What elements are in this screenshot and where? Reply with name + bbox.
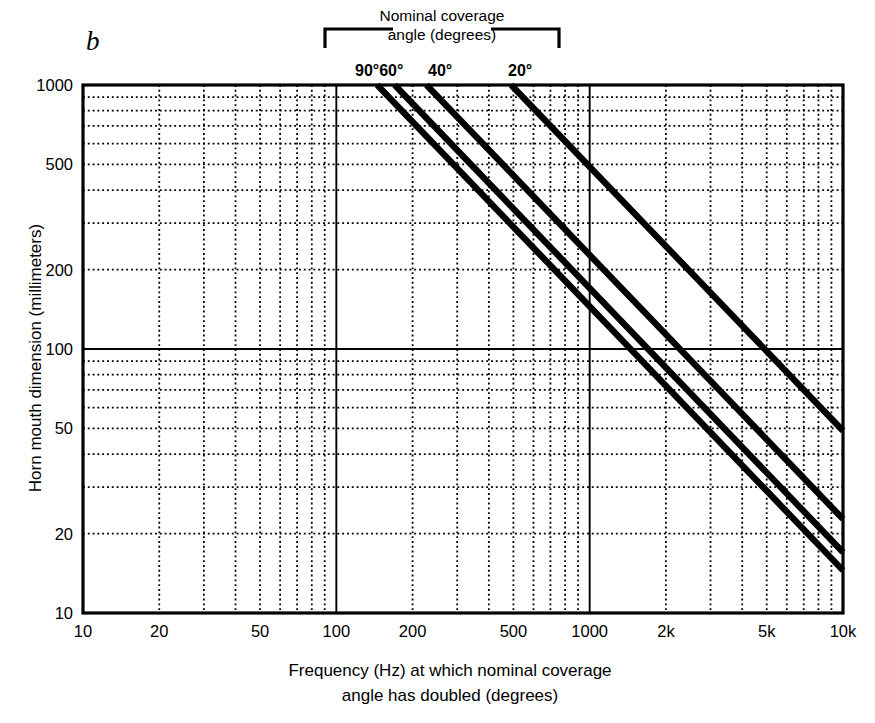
x-tick-label: 500 [500, 622, 528, 641]
x-tick-label: 2k [657, 622, 674, 641]
x-tick-label: 20 [150, 622, 168, 641]
x-tick-label: 10 [74, 622, 92, 641]
y-tick-label: 1000 [0, 76, 73, 95]
x-tick-label: 1000 [571, 622, 608, 641]
x-tick-label: 5k [758, 622, 775, 641]
gridlines [83, 85, 843, 613]
data-series [377, 85, 843, 570]
x-tick-label: 200 [399, 622, 427, 641]
x-axis-title-line1: Frequency (Hz) at which nominal coverage [170, 658, 730, 683]
series-line-90deg [377, 85, 843, 570]
series-line-60deg [395, 85, 843, 552]
x-axis-title: Frequency (Hz) at which nominal coverage… [170, 658, 730, 708]
x-tick-label: 100 [323, 622, 351, 641]
plot-area [0, 0, 875, 723]
x-tick-label: 50 [251, 622, 269, 641]
x-axis-title-line2: angle has doubled (degrees) [170, 683, 730, 708]
plot-canvas [0, 0, 875, 723]
figure-panel-b: b Nominal coverage angle (degrees) 90°60… [0, 0, 875, 723]
x-tick-label: 10k [830, 622, 857, 641]
y-axis-title: Horn mouth dimension (millimeters) [26, 108, 46, 608]
